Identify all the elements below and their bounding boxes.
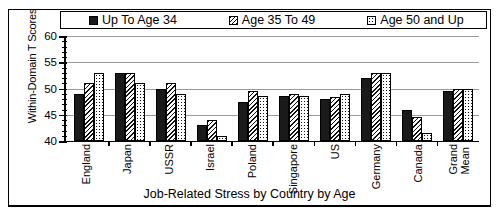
x-axis-tick-label: Canada — [413, 144, 425, 183]
y-tick-minor — [62, 110, 67, 111]
x-axis-title: Job-Related Stress by Country by Age — [8, 187, 491, 201]
x-tick — [437, 141, 439, 146]
hatched-square-icon — [229, 16, 238, 25]
bar — [197, 125, 207, 141]
x-axis-tick-label: Japan — [122, 144, 134, 174]
bar — [289, 94, 299, 141]
x-tick — [108, 141, 110, 146]
y-tick-minor — [62, 94, 67, 95]
x-tick — [231, 141, 233, 146]
x-axis-tick-label: Germany — [371, 144, 383, 189]
y-tick-minor — [62, 73, 67, 74]
x-axis-tick-label: Poland — [247, 144, 259, 178]
x-label-cell: Poland — [232, 144, 274, 188]
bar — [453, 89, 463, 142]
y-axis-title: Within-Domain T Scores — [26, 0, 38, 146]
bar — [74, 94, 84, 141]
y-tick-minor — [62, 68, 67, 69]
legend-item-up-to-age-34: Up To Age 34 — [89, 13, 177, 27]
y-tick-minor — [62, 104, 67, 105]
bar-groups — [68, 36, 479, 141]
bar-group — [232, 36, 273, 141]
y-tick-label: 45 — [44, 109, 57, 121]
y-tick-minor — [62, 41, 67, 42]
bar — [279, 96, 289, 141]
x-label-cell: Singapore — [274, 144, 316, 188]
y-tick-minor — [62, 120, 67, 121]
bar-group — [191, 36, 232, 141]
x-label-cell: Japan — [108, 144, 150, 188]
x-tick — [396, 141, 398, 146]
x-axis-tick-label: England — [81, 144, 93, 184]
chart-figure: Up To Age 34 Age 35 To 49 Age 50 and Up … — [0, 0, 501, 219]
x-axis-tick-label: Israel — [205, 144, 217, 171]
bar-group — [273, 36, 314, 141]
bar-group — [315, 36, 356, 141]
plot-area: 4045505560 — [64, 36, 479, 142]
legend-item-age-35-to-49: Age 35 To 49 — [229, 13, 315, 27]
x-label-cell: Canada — [398, 144, 440, 188]
bar-group — [68, 36, 109, 141]
bar — [463, 89, 473, 142]
y-tick-label: 55 — [44, 56, 57, 68]
x-tick — [190, 141, 192, 146]
bar — [381, 73, 391, 141]
x-axis-tick-label: USSR — [164, 144, 176, 175]
y-tick-major — [59, 141, 67, 143]
bar — [443, 91, 453, 141]
dotted-square-icon — [367, 16, 376, 25]
legend-item-age-50-and-up: Age 50 and Up — [367, 13, 463, 27]
y-tick-label: 50 — [44, 83, 57, 95]
y-tick-major — [59, 89, 67, 91]
bar — [207, 120, 217, 141]
y-tick-label: 40 — [44, 135, 57, 147]
bar-group — [109, 36, 150, 141]
bar — [299, 96, 309, 141]
x-tick — [355, 141, 357, 146]
x-label-cell: Germany — [357, 144, 399, 188]
bar — [115, 73, 125, 141]
bar — [340, 94, 350, 141]
y-tick-label: 60 — [44, 30, 57, 42]
x-axis-tick-label: US — [330, 144, 342, 159]
x-axis-tick-labels: EnglandJapanUSSRIsraelPolandSingaporeUSG… — [66, 144, 481, 188]
legend-label-2: Age 50 and Up — [380, 13, 463, 27]
x-label-cell: USSR — [149, 144, 191, 188]
plot-area-wrapper: 4045505560 — [64, 36, 479, 142]
y-tick-minor — [62, 131, 67, 132]
bar — [361, 78, 371, 141]
y-tick-minor — [62, 83, 67, 84]
y-tick-major — [59, 62, 67, 64]
bar — [422, 133, 432, 141]
chart-legend: Up To Age 34 Age 35 To 49 Age 50 and Up — [60, 11, 487, 29]
y-tick-major — [59, 36, 67, 38]
legend-label-0: Up To Age 34 — [102, 13, 177, 27]
bar — [258, 96, 268, 141]
bar — [176, 94, 186, 141]
x-tick — [272, 141, 274, 146]
bar-group — [397, 36, 438, 141]
y-tick-minor — [62, 47, 67, 48]
bar — [135, 83, 145, 141]
bar — [320, 99, 330, 141]
y-tick-major — [59, 115, 67, 117]
y-tick-minor — [62, 57, 67, 58]
bar-group — [438, 36, 479, 141]
bar — [156, 89, 166, 142]
bar-group — [150, 36, 191, 141]
bar — [166, 83, 176, 141]
x-tick — [149, 141, 151, 146]
legend-label-1: Age 35 To 49 — [242, 13, 315, 27]
y-tick-minor — [62, 78, 67, 79]
x-label-cell: Israel — [191, 144, 233, 188]
y-tick-minor — [62, 136, 67, 137]
x-tick — [314, 141, 316, 146]
bar — [94, 73, 104, 141]
y-tick-minor — [62, 52, 67, 53]
x-label-cell: US — [315, 144, 357, 188]
bar — [371, 73, 381, 141]
bar-group — [356, 36, 397, 141]
bar — [248, 91, 258, 141]
y-tick-minor — [62, 99, 67, 100]
bar — [125, 73, 135, 141]
